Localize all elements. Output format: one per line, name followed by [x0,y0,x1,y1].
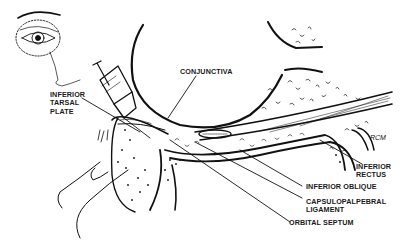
label-orbital-septum: ORBITAL SEPTUM [289,219,354,227]
orbital-fat [262,27,368,152]
label-conjunctiva: CONJUNCTIVA [180,68,232,76]
finger-icon [58,162,128,238]
label-capsulopalpebral-ligament: CAPSULOPALPEBRAL LIGAMENT [306,198,386,215]
lower-lid-fat [175,133,304,146]
inferior-oblique-muscle [199,130,231,138]
anatomy-diagram: RCM CONJUNCTIVA INFERIOR TARSAL PLATE IN… [0,0,412,242]
inferior-rectus-muscle [195,92,392,140]
lower-eyelid [98,117,168,142]
label-inferior-oblique: INFERIOR OBLIQUE [306,183,377,191]
eye-face-inset-icon [16,12,80,86]
signature: RCM [370,134,386,141]
label-inferior-tarsal-plate: INFERIOR TARSAL PLATE [50,91,85,116]
label-inferior-rectus: INFERIOR RECTUS [356,163,391,180]
